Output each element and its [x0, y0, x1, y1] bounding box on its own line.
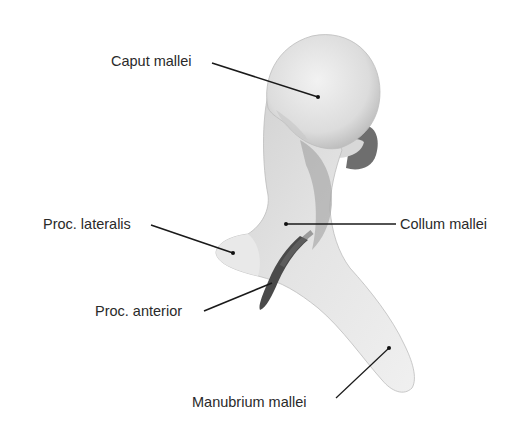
label-proc-lateralis: Proc. lateralis [43, 217, 131, 232]
label-proc-anterior: Proc. anterior [95, 304, 182, 319]
label-caput-mallei: Caput mallei [111, 54, 192, 69]
label-manubrium-mallei: Manubrium mallei [192, 395, 306, 410]
proc-lateralis-shape [216, 234, 260, 276]
label-collum-mallei: Collum mallei [400, 217, 487, 232]
malleus-diagram: Caput mallei Proc. lateralis Collum mall… [0, 0, 532, 442]
leader-lateralis [151, 225, 233, 253]
